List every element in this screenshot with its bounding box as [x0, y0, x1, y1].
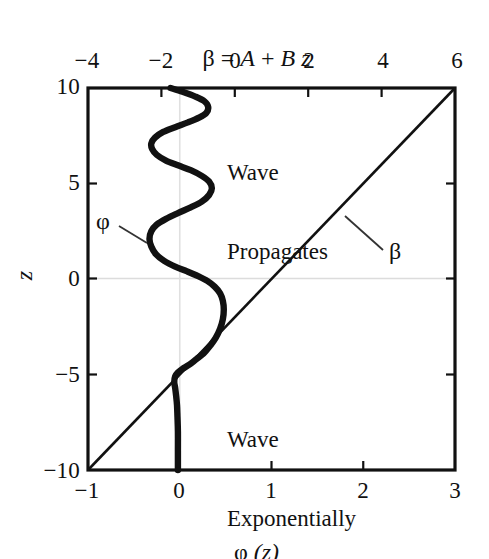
leader-line-beta	[345, 216, 383, 250]
chart-figure: β = A + B z −4 −2 0 2 4 6 10 5 0 −5 −10 …	[0, 0, 489, 559]
plot-canvas	[0, 0, 489, 559]
leader-line-phi	[119, 226, 147, 243]
